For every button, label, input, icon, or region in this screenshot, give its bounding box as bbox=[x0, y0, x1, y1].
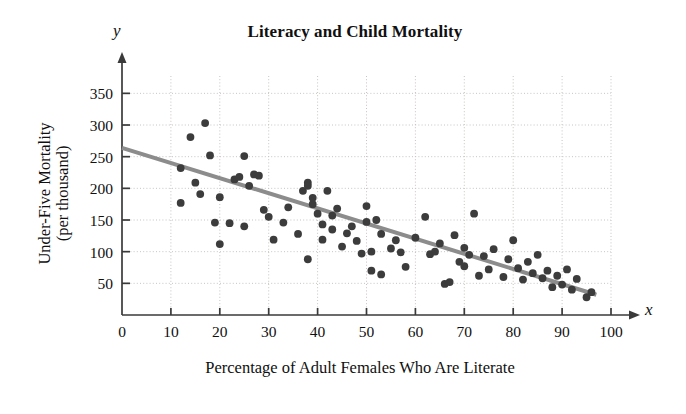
svg-text:100: 100 bbox=[599, 323, 623, 340]
svg-text:30: 30 bbox=[261, 323, 277, 340]
scatter-plot-canvas: 0102030405060708090100501001502002503003… bbox=[0, 0, 686, 414]
svg-text:350: 350 bbox=[90, 85, 114, 102]
regression-line bbox=[122, 148, 596, 295]
svg-text:300: 300 bbox=[90, 117, 114, 134]
svg-text:70: 70 bbox=[457, 323, 473, 340]
svg-text:20: 20 bbox=[212, 323, 228, 340]
svg-text:200: 200 bbox=[90, 180, 114, 197]
svg-text:0: 0 bbox=[118, 323, 126, 340]
svg-text:50: 50 bbox=[359, 323, 375, 340]
svg-text:50: 50 bbox=[98, 275, 114, 292]
chart-figure: Literacy and Child Mortality y x Under-F… bbox=[0, 0, 686, 414]
svg-text:90: 90 bbox=[554, 323, 570, 340]
svg-text:250: 250 bbox=[90, 149, 114, 166]
svg-text:80: 80 bbox=[505, 323, 521, 340]
svg-text:40: 40 bbox=[310, 323, 326, 340]
svg-text:10: 10 bbox=[163, 323, 179, 340]
data-points bbox=[177, 119, 596, 301]
axis-tick-labels: 0102030405060708090100501001502002503003… bbox=[90, 85, 623, 340]
svg-text:150: 150 bbox=[90, 212, 114, 229]
svg-text:100: 100 bbox=[90, 244, 114, 261]
svg-text:60: 60 bbox=[408, 323, 424, 340]
